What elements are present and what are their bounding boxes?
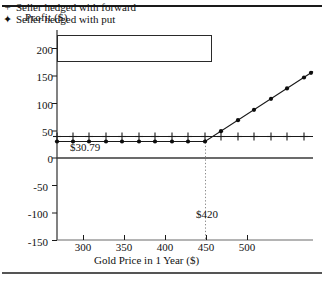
x-tick-marks: [84, 235, 248, 240]
annotation-strike-value: $420: [196, 208, 218, 220]
annotation-put-floor-value: $30.79: [70, 141, 100, 153]
series-seller-hedged-with-forward: [53, 133, 313, 141]
legend-item-forward: + Seller hedged with forward: [3, 1, 136, 13]
legend-label-forward: Seller hedged with forward: [16, 1, 136, 13]
legend-label-put: Seller hedged with put: [16, 13, 115, 25]
legend-plus-marker-icon: +: [3, 2, 12, 13]
series-put-markers: [55, 71, 313, 144]
legend-item-put: ✦ Seller hedged with put: [3, 13, 115, 25]
y-tick-marks: [52, 49, 57, 241]
chart-legend: [57, 35, 212, 62]
figure-chart-profit-vs-gold-price: Profit ($) Gold Price in 1 Year ($) 200 …: [0, 0, 324, 285]
series-seller-hedged-with-put: [55, 71, 313, 144]
legend-diamond-marker-icon: ✦: [3, 14, 12, 25]
